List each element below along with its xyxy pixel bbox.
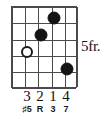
marker-string5-fret4	[61, 63, 74, 76]
finger-number-string4: 1	[49, 88, 57, 104]
fretboard-grid	[11, 6, 77, 88]
finger-number-string5: 4	[62, 88, 70, 104]
string-line-6	[12, 7, 13, 87]
marker-string3-fret2	[35, 29, 48, 42]
interval-label-string3: R	[37, 104, 44, 114]
chord-diagram-widget: 5fr. 3 2 1 4 ♯5 R 3 7	[0, 0, 112, 117]
finger-number-string3: 2	[36, 88, 44, 104]
string-line-4	[38, 7, 39, 87]
fret-position-label: 5fr.	[81, 39, 100, 54]
finger-number-string2: 3	[23, 88, 31, 104]
interval-label-string5: 7	[63, 104, 68, 114]
fret-line-3	[12, 56, 76, 57]
string-line-1	[77, 7, 78, 87]
marker-string4-fret1	[48, 12, 61, 25]
fret-line-1	[12, 23, 76, 24]
marker-string2-fret3	[21, 46, 33, 58]
interval-label-string4: 3	[50, 104, 55, 114]
fret-line-0	[12, 7, 76, 8]
interval-label-string2: ♯5	[22, 104, 32, 114]
